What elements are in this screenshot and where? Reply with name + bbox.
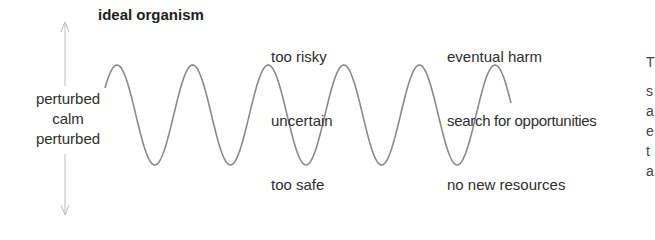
- label-too-risky: too risky: [271, 47, 327, 67]
- cutoff-letter: T: [646, 52, 655, 72]
- axis-state-labels: perturbed calm perturbed: [22, 89, 114, 149]
- label-too-safe: too safe: [271, 175, 324, 195]
- label-eventual-harm: eventual harm: [447, 47, 542, 67]
- axis-label-bottom: perturbed: [22, 129, 114, 149]
- axis-label-top: perturbed: [22, 89, 114, 109]
- label-no-new-resources: no new resources: [447, 175, 565, 195]
- cutoff-letter: a: [646, 161, 654, 181]
- axis-label-middle: calm: [22, 109, 114, 129]
- cutoff-letter: s: [646, 81, 653, 101]
- label-search-for-opportunities: search for opportunities: [447, 111, 597, 131]
- cutoff-letter: e: [646, 121, 654, 141]
- cutoff-letter: a: [646, 101, 654, 121]
- cutoff-letter: t: [646, 141, 650, 161]
- label-uncertain: uncertain: [271, 111, 333, 131]
